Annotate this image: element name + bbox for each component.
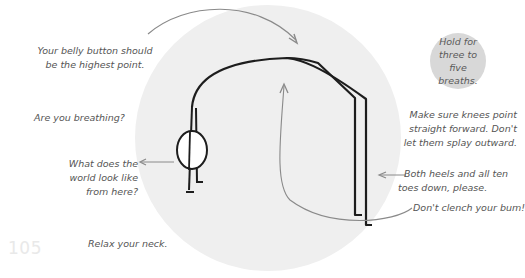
- annotation-knees: Make sure knees point straight forward. …: [400, 108, 517, 150]
- page-number: 105: [8, 238, 42, 258]
- annotation-world-view: What does the world look like from here?: [40, 157, 138, 199]
- annotation-breathing: Are you breathing?: [34, 111, 125, 125]
- hold-callout-text: Hold for three to five breaths.: [430, 35, 486, 87]
- belly-arrow-line: [148, 9, 296, 40]
- annotation-heels: Both heels and all ten toes down, please…: [398, 167, 520, 195]
- hold-callout: Hold for three to five breaths.: [430, 33, 486, 89]
- arrowhead-icon: [289, 34, 297, 43]
- annotation-bum: Don't clench your bum!: [413, 201, 525, 215]
- annotation-relax-neck: Relax your neck.: [88, 237, 168, 251]
- legs-outline: [288, 58, 372, 225]
- head: [177, 131, 207, 169]
- annotation-belly-button: Your belly button should be the highest …: [34, 44, 156, 72]
- torso-outline: [192, 58, 362, 215]
- bum-arrow-line: [280, 86, 412, 221]
